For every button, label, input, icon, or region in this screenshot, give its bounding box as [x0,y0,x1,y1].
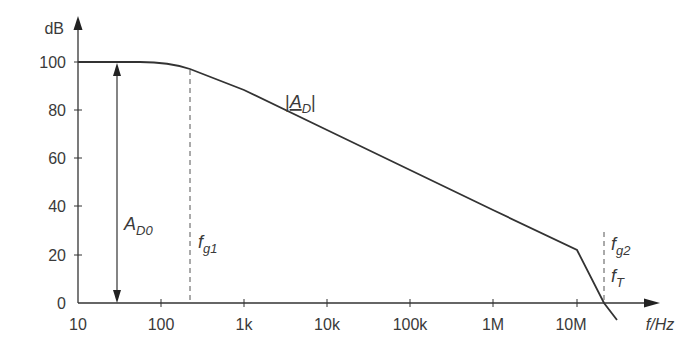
y-tick-label: 20 [48,247,66,264]
y-tick-label: 100 [39,54,66,71]
arrow-up-icon [113,63,121,76]
x-tick-label: 1M [482,316,504,333]
ft-label: fT [611,266,625,290]
bode-plot: dB 100 80 60 40 20 0 10 100 1k 10k 100k … [0,0,699,357]
ad0-double-arrow [113,63,121,303]
y-tick-label: 40 [48,198,66,215]
y-tick-label: 80 [48,102,66,119]
y-axis-arrow-icon [74,16,83,30]
x-tick-label: 10 [69,316,87,333]
gain-curve [78,62,617,320]
arrow-down-icon [113,290,121,303]
fg1-label: fg1 [198,232,217,256]
x-tick-label: 100k [393,316,429,333]
x-axis: 10 100 1k 10k 100k 1M 10M f/Hz [69,299,674,334]
x-axis-arrow-icon [644,299,660,308]
y-tick-label: 0 [57,295,66,312]
y-axis: dB 100 80 60 40 20 0 [39,16,82,312]
fg2-label: fg2 [611,234,631,258]
x-tick-label: 1k [236,316,254,333]
x-tick-label: 10k [314,316,341,333]
y-tick-label: 60 [48,150,66,167]
x-tick-label: 10M [555,316,586,333]
x-axis-unit-label: f/Hz [646,316,674,333]
x-tick-label: 100 [148,316,175,333]
ad0-label: AD0 [123,214,153,238]
y-axis-unit-label: dB [44,20,64,37]
